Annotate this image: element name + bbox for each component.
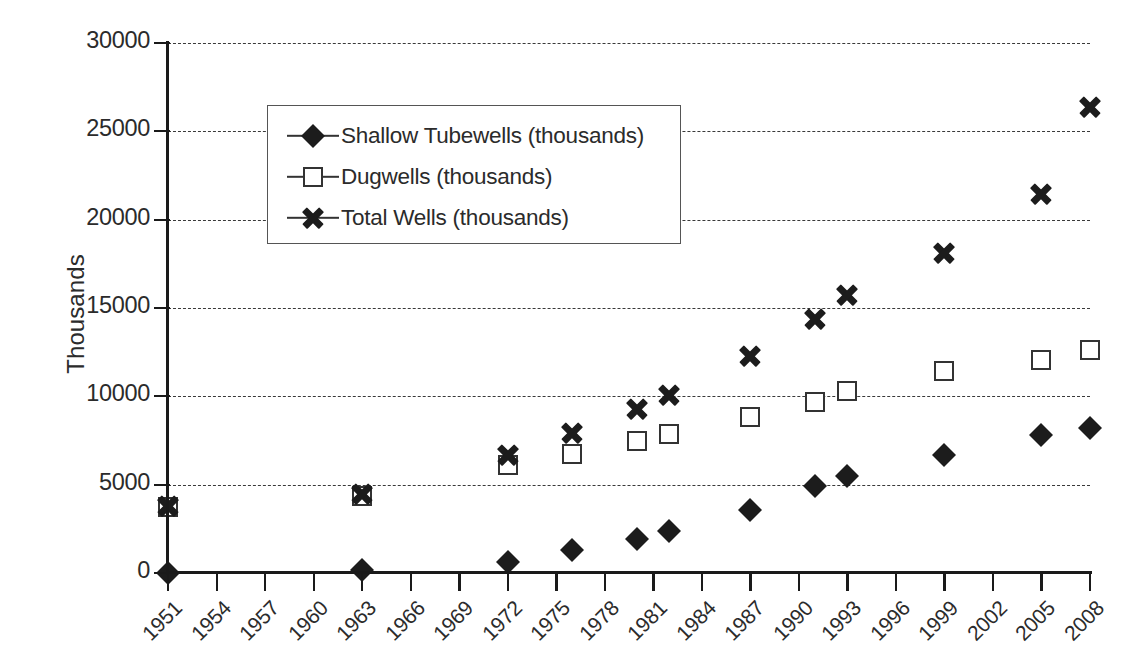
legend: Shallow Tubewells (thousands)Dugwells (t… [267,105,681,244]
data-point [740,407,760,427]
x-axis-tick [264,574,266,591]
data-point [562,444,582,464]
x-axis-tick-label: 1993 [804,596,866,658]
x-axis-tick [846,574,848,591]
data-point [1080,340,1100,360]
x-axis-tick-label: 1987 [707,596,769,658]
x-axis-tick [701,574,703,591]
y-axis-tick [154,307,170,309]
x-axis-tick-label: 1966 [367,596,429,658]
gridline [168,308,1090,309]
x-axis-tick [216,574,218,591]
legend-swatch [285,121,341,151]
x-axis-tick-label: 2008 [1047,596,1109,658]
data-point [625,397,649,421]
gridline [168,485,1090,486]
x-axis-tick [604,574,606,591]
data-point [803,474,827,498]
data-point [1078,416,1102,440]
x-axis-tick-label: 2005 [998,596,1060,658]
data-point [657,519,681,543]
data-point [738,498,762,522]
data-point [738,344,762,368]
bold-x-icon [301,206,325,230]
y-axis-tick-label: 10000 [10,380,150,407]
legend-swatch [285,203,341,233]
x-axis-tick-label: 1951 [125,596,187,658]
x-axis-tick [555,574,557,591]
data-point [1029,423,1053,447]
x-axis-tick-label: 1981 [610,596,672,658]
legend-item[interactable]: Total Wells (thousands) [268,198,680,238]
x-axis-tick-label: 1984 [659,596,721,658]
y-axis-tick [154,484,170,486]
data-point [657,383,681,407]
x-axis-tick [507,574,509,591]
x-axis-tick-label: 1996 [853,596,915,658]
x-axis-tick [798,574,800,591]
data-point [625,527,649,551]
data-point [835,283,859,307]
x-axis-tick-label: 1975 [513,596,575,658]
x-axis-tick-label: 1969 [416,596,478,658]
x-axis-tick [652,574,654,591]
legend-label: Dugwells (thousands) [341,164,552,190]
data-point [803,307,827,331]
gridline [168,43,1090,44]
open-square-icon [303,167,323,187]
y-axis-tick-label: 20000 [10,204,150,231]
data-point [350,482,374,506]
data-point [932,241,956,265]
y-axis-tick-label: 15000 [10,292,150,319]
x-axis-tick-label: 1990 [756,596,818,658]
data-point [932,443,956,467]
legend-swatch [285,162,341,192]
y-axis-tick-label: 30000 [10,27,150,54]
legend-label: Shallow Tubewells (thousands) [341,123,644,149]
x-axis-tick [943,574,945,591]
x-axis-tick [361,574,363,591]
wells-scatter-chart: Thousands 300002500020000150001000050000… [0,0,1122,671]
data-point [659,424,679,444]
data-point [1029,182,1053,206]
x-axis-line [166,571,1092,574]
x-axis-tick-label: 2002 [950,596,1012,658]
x-axis-tick-label: 1957 [222,596,284,658]
x-axis-tick-label: 1978 [561,596,623,658]
x-axis-tick-label: 1960 [270,596,332,658]
y-axis-tick [154,42,170,44]
x-axis-tick [458,574,460,591]
x-axis-tick [895,574,897,591]
x-axis-tick [992,574,994,591]
legend-item[interactable]: Dugwells (thousands) [268,157,680,197]
x-axis-tick [167,574,169,591]
data-point [1078,95,1102,119]
y-axis-tick [154,130,170,132]
x-axis-tick [313,574,315,591]
x-axis-tick-label: 1954 [173,596,235,658]
x-axis-tick [410,574,412,591]
legend-label: Total Wells (thousands) [341,205,569,231]
legend-item[interactable]: Shallow Tubewells (thousands) [268,116,680,156]
x-axis-tick [1040,574,1042,591]
x-axis-tick-label: 1999 [901,596,963,658]
y-axis-tick [154,395,170,397]
filled-diamond-icon [301,124,325,148]
data-point [560,421,584,445]
data-point [1031,350,1051,370]
data-point [627,431,647,451]
x-axis-tick [749,574,751,591]
data-point [560,538,584,562]
data-point [496,443,520,467]
data-point [934,361,954,381]
x-axis-tick-label: 1972 [464,596,526,658]
y-axis-tick-label: 25000 [10,115,150,142]
y-axis-tick [154,219,170,221]
data-point [805,392,825,412]
x-axis-tick-label: 1963 [319,596,381,658]
x-axis-tick [1089,574,1091,591]
data-point [837,381,857,401]
y-axis-tick-label: 5000 [10,469,150,496]
y-axis-tick-label: 0 [10,557,150,584]
